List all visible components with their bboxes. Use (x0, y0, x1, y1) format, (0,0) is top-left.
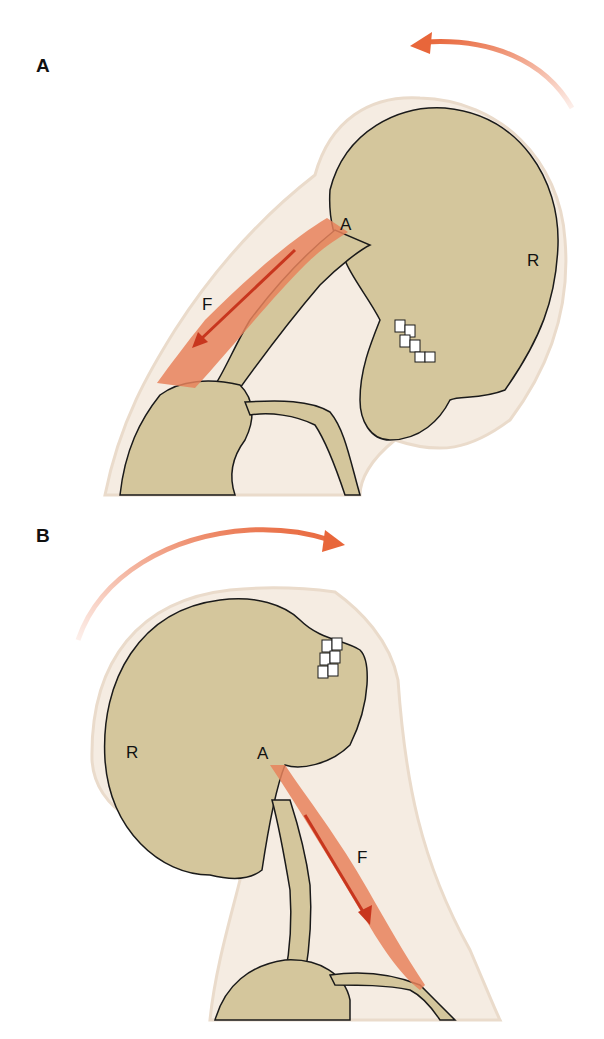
attachment-label-b: A (257, 744, 268, 764)
rotation-center-label-a: R (527, 251, 539, 271)
panel-a (105, 32, 572, 495)
arrowhead-icon (410, 32, 432, 54)
diagram-canvas (0, 0, 604, 1039)
rotation-center-label-b: R (126, 743, 138, 763)
muscle-label-a: F (202, 295, 212, 315)
panel-label-b: B (36, 525, 50, 547)
arrowhead-icon (322, 530, 345, 552)
rotation-arrow-ccw-icon (425, 42, 572, 108)
muscle-label-b: F (357, 848, 367, 868)
panel-b (78, 530, 500, 1020)
panel-label-a: A (36, 55, 50, 77)
teeth (318, 638, 342, 678)
attachment-label-a: A (340, 215, 351, 235)
